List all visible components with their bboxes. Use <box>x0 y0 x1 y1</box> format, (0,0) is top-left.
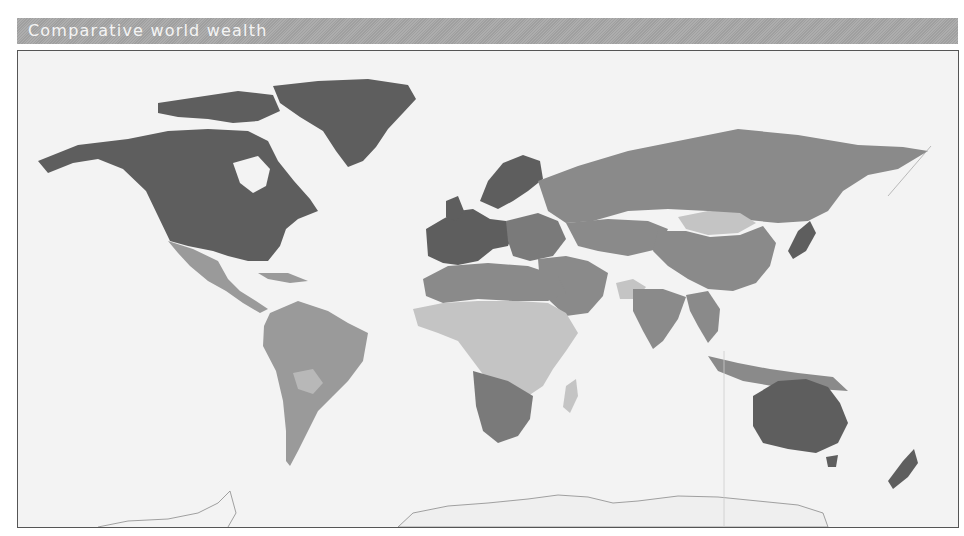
region-scandinavia <box>480 155 543 209</box>
region-madagascar <box>563 379 578 413</box>
region-central-asia <box>566 219 668 256</box>
region-caribbean <box>258 273 308 283</box>
region-antarctica <box>398 495 828 527</box>
title-bar: Comparative world wealth <box>17 18 958 44</box>
region-south-asia <box>633 289 686 349</box>
region-australia <box>753 379 848 453</box>
region-japan <box>788 221 816 259</box>
region-greenland <box>273 79 416 167</box>
region-tasmania <box>826 455 838 467</box>
region-eastern-europe <box>506 213 566 261</box>
region-southeast-asia <box>686 291 720 343</box>
world-map <box>17 50 959 528</box>
world-map-svg <box>18 51 958 527</box>
map-title: Comparative world wealth <box>28 20 268 42</box>
region-china <box>653 226 776 291</box>
region-russia <box>538 129 928 223</box>
region-antarctic-peninsula <box>98 491 236 527</box>
region-north-america <box>38 129 318 261</box>
region-western-europe <box>426 209 513 265</box>
region-new-zealand <box>888 449 918 489</box>
region-canada-arctic <box>158 91 280 123</box>
